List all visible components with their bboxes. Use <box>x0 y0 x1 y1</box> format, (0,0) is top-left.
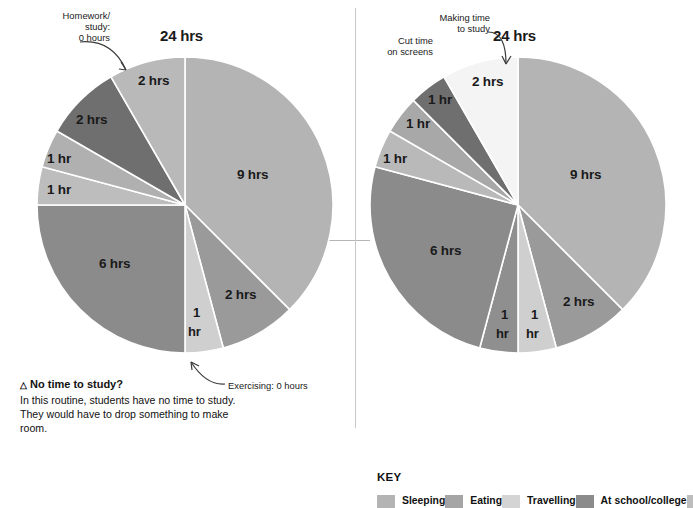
legend: SleepingEatingTravellingAt school/colleg… <box>377 490 693 508</box>
right-callout-screens-line1: Cut time <box>355 35 433 46</box>
right-label-exercising-line1: 1 <box>501 308 508 322</box>
right-label-school: 6 hrs <box>430 244 461 258</box>
legend-swatch <box>502 495 520 508</box>
legend-swatch <box>445 495 463 508</box>
right-label-exercising-line2: hr <box>496 327 509 341</box>
key-title: KEY <box>377 471 401 485</box>
legend-swatch <box>377 495 395 508</box>
right-label-eating: 2 hrs <box>563 295 594 309</box>
pie-chart-right <box>0 0 693 440</box>
legend-label: Eating <box>470 495 502 507</box>
legend-swatch <box>576 495 594 508</box>
legend-item: Sleeping <box>377 490 445 508</box>
right-callout-screens-line2: on screens <box>355 46 433 57</box>
right-callout-study-line2: to study <box>390 23 490 34</box>
right-label-travelling-line2: hr <box>526 327 539 341</box>
right-label-sleeping: 9 hrs <box>570 168 601 182</box>
right-callout-study: Making time to study <box>390 12 490 34</box>
right-label-travelling-line1: 1 <box>531 308 538 322</box>
legend-label: Sleeping <box>402 495 445 507</box>
legend-item: Eating <box>445 490 502 508</box>
legend-label: Travelling <box>527 495 576 507</box>
legend-swatch <box>687 495 693 508</box>
right-callout-screens: Cut time on screens Making time to keep … <box>355 35 433 57</box>
legend-label: At school/college <box>601 495 687 507</box>
right-label-with-friends: 1 hr <box>383 152 407 166</box>
legend-item: With friends <box>687 490 693 508</box>
right-callout-study-arrow <box>486 24 556 84</box>
legend-item: Travelling <box>502 490 576 508</box>
right-label-video-games: 1 hr <box>428 93 452 107</box>
right-label-watching-tv: 1 hr <box>406 117 430 131</box>
right-callout-study-line1: Making time <box>390 12 490 23</box>
legend-item: At school/college <box>576 490 687 508</box>
infographic-root: 24 hrs 9 hrs 2 hrs 1 hr 6 hrs 1 hr 1 hr … <box>0 0 693 508</box>
